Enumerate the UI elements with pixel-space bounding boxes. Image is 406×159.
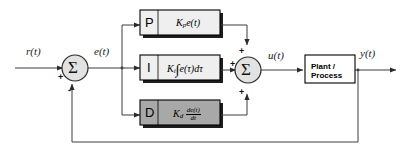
- plant-label-line2: Process: [311, 71, 342, 80]
- output-branch-dot: [357, 69, 360, 72]
- p-output-line: [220, 25, 247, 45]
- d-block-letter: D: [145, 106, 154, 119]
- control-signal-label: u(t): [268, 50, 284, 61]
- left-sum-minus-sign: -: [68, 86, 71, 95]
- p-block-letter: P: [145, 16, 154, 29]
- left-sum-symbol: Σ: [68, 59, 78, 76]
- d-block-formula: Kd de(t) dt: [173, 107, 201, 123]
- i-block-formula: Ki∫e(τ)dτ: [167, 63, 203, 77]
- i-gain-symbol: K: [167, 63, 174, 74]
- p-block-formula: Kpe(t): [176, 18, 200, 29]
- output-signal-label: y(t): [360, 48, 375, 59]
- derivative-fraction: de(t) dt: [186, 107, 201, 123]
- derivative-denominator: dt: [186, 115, 201, 122]
- p-gain-symbol: K: [176, 17, 183, 28]
- pid-block-diagram: r(t) e(t) u(t) y(t) Σ Σ + - + + + P Kpe(…: [0, 0, 406, 159]
- error-branch-dot: [121, 67, 124, 70]
- right-sum-plus-left: +: [230, 60, 235, 69]
- right-sum-symbol: Σ: [241, 61, 251, 78]
- right-sum-plus-top: +: [239, 47, 244, 56]
- d-output-line: [220, 94, 247, 115]
- reference-signal-label: r(t): [26, 46, 41, 57]
- d-gain-subscript: d: [180, 112, 184, 120]
- d-gain-symbol: K: [173, 108, 180, 119]
- plant-label-line1: Plant /: [311, 62, 335, 71]
- p-formula-tail: e(t): [186, 17, 200, 28]
- i-block-letter: I: [147, 61, 151, 74]
- error-signal-label: e(t): [94, 46, 109, 57]
- i-formula-tail: e(τ)dτ: [179, 63, 202, 74]
- right-sum-plus-bottom: +: [239, 88, 244, 97]
- plant-block-label: Plant / Process: [311, 62, 342, 81]
- left-sum-plus-sign: +: [58, 73, 63, 82]
